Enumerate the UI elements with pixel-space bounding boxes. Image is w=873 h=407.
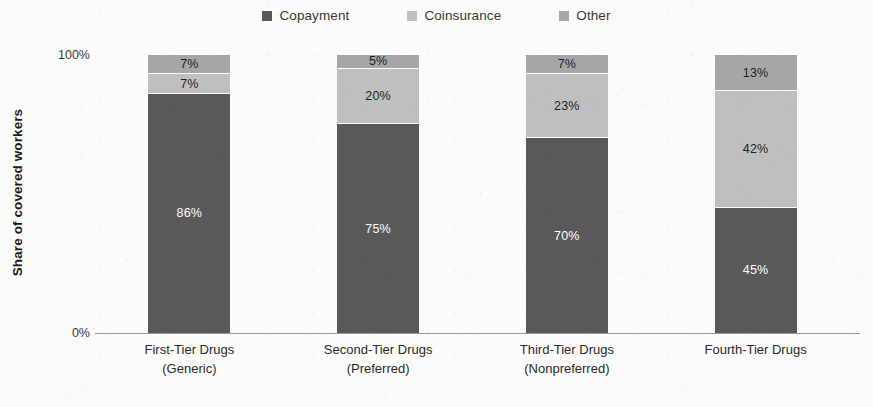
bar-segment-copayment[interactable]: 86% <box>148 94 230 333</box>
bar-segment-coinsurance[interactable]: 20% <box>337 69 419 125</box>
bar-segment-coinsurance[interactable]: 7% <box>148 74 230 93</box>
x-axis-line <box>95 333 860 334</box>
legend-item-other[interactable]: Other <box>559 8 610 23</box>
x-category-fourth-tier: Fourth-Tier Drugs <box>661 340 850 378</box>
bar-segment-other[interactable]: 7% <box>526 55 608 74</box>
legend-label: Copayment <box>279 8 349 23</box>
chart-legend: Copayment Coinsurance Other <box>0 8 873 23</box>
bar-segment-other[interactable]: 7% <box>148 55 230 74</box>
square-swatch-icon <box>262 11 272 21</box>
x-category-first-tier: First-Tier Drugs (Generic) <box>95 340 284 378</box>
x-axis-category-labels: First-Tier Drugs (Generic) Second-Tier D… <box>95 340 850 378</box>
x-category-line1: Third-Tier Drugs <box>520 342 614 357</box>
bar-group-first-tier: 7% 7% 86% <box>95 55 284 333</box>
bar-segment-other[interactable]: 5% <box>337 55 419 69</box>
plot-area: 7% 7% 86% 5% 20% 75% 7% 23% 70% <box>95 55 850 333</box>
bar-group-third-tier: 7% 23% 70% <box>473 55 662 333</box>
stacked-bar-chart: Copayment Coinsurance Other Share of cov… <box>0 0 873 407</box>
x-category-second-tier: Second-Tier Drugs (Preferred) <box>284 340 473 378</box>
legend-label: Coinsurance <box>424 8 501 23</box>
stacked-bar[interactable]: 13% 42% 45% <box>715 55 797 333</box>
bar-segment-coinsurance[interactable]: 23% <box>526 74 608 138</box>
y-axis-title-text: Share of covered workers <box>11 109 26 276</box>
x-category-line1: Fourth-Tier Drugs <box>705 342 807 357</box>
bar-series-container: 7% 7% 86% 5% 20% 75% 7% 23% 70% <box>95 55 850 333</box>
stacked-bar[interactable]: 7% 7% 86% <box>148 55 230 333</box>
legend-label: Other <box>576 8 610 23</box>
legend-item-coinsurance[interactable]: Coinsurance <box>407 8 501 23</box>
bar-segment-copayment[interactable]: 45% <box>715 208 797 333</box>
y-axis-ticks: 100% 0% <box>28 0 90 407</box>
bar-group-second-tier: 5% 20% 75% <box>284 55 473 333</box>
stacked-bar[interactable]: 5% 20% 75% <box>337 55 419 333</box>
square-swatch-icon <box>407 11 417 21</box>
x-category-line1: First-Tier Drugs <box>144 342 234 357</box>
x-category-line1: Second-Tier Drugs <box>324 342 433 357</box>
legend-item-copayment[interactable]: Copayment <box>262 8 349 23</box>
bar-group-fourth-tier: 13% 42% 45% <box>661 55 850 333</box>
bar-segment-coinsurance[interactable]: 42% <box>715 91 797 208</box>
square-swatch-icon <box>559 11 569 21</box>
x-category-line2: (Nonpreferred) <box>473 359 662 378</box>
x-category-line2: (Generic) <box>95 359 284 378</box>
bar-segment-other[interactable]: 13% <box>715 55 797 91</box>
x-category-third-tier: Third-Tier Drugs (Nonpreferred) <box>473 340 662 378</box>
y-tick-label-0: 0% <box>32 326 90 340</box>
y-tick-label-100: 100% <box>32 48 90 62</box>
x-category-line2: (Preferred) <box>284 359 473 378</box>
stacked-bar[interactable]: 7% 23% 70% <box>526 55 608 333</box>
bar-segment-copayment[interactable]: 75% <box>337 124 419 333</box>
bar-segment-copayment[interactable]: 70% <box>526 138 608 333</box>
